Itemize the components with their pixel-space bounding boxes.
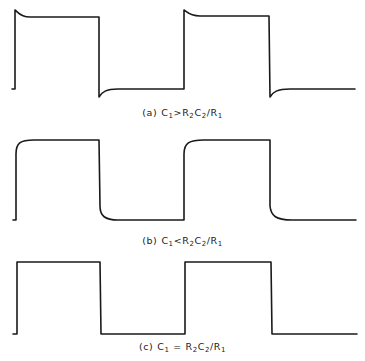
caption-c: (c)C1 = R2C2/R1 — [0, 341, 365, 352]
caption-b-label: (b) — [142, 235, 157, 246]
caption-a-label: (a) — [142, 107, 157, 118]
caption-b: (b)C1<R2C2/R1 — [0, 235, 365, 246]
caption-a: (a)C1>R2C2/R1 — [0, 107, 365, 118]
caption-c-label: (c) — [139, 341, 153, 352]
waveform-c-compensated — [0, 0, 365, 361]
